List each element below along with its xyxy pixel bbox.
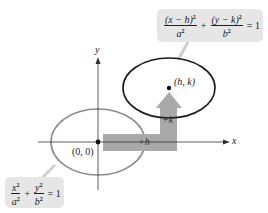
center-label: (h, k)	[174, 76, 195, 87]
plus-sign: +	[24, 188, 30, 199]
fraction-x: x2 a2	[11, 180, 20, 207]
top-callout-pointer	[178, 42, 188, 60]
equals-one: = 1	[48, 188, 61, 199]
translated-equation: (x − h)2 a2 + (y − k)2 b2 = 1	[162, 12, 262, 39]
vertical-shift-label: +k	[162, 114, 173, 125]
exponent: 2	[228, 28, 231, 34]
exponent: 2	[181, 28, 184, 34]
fraction-y: y2 b2	[34, 180, 43, 207]
numerator-x: (x − h)	[165, 14, 193, 25]
center-point	[167, 86, 171, 90]
x-axis-arrow-icon	[223, 140, 230, 145]
origin-point	[96, 140, 101, 145]
exponent: 2	[193, 14, 196, 20]
plus-sign: +	[201, 20, 207, 31]
fraction-x: (x − h)2 a2	[164, 12, 197, 39]
fraction-y: (y − k)2 b2	[211, 12, 243, 39]
numerator-y: (y − k)	[212, 14, 239, 25]
equals-one: = 1	[247, 20, 260, 31]
translated-equation-callout: (x − h)2 a2 + (y − k)2 b2 = 1	[157, 9, 263, 42]
horizontal-shift-label: +h	[138, 136, 150, 147]
exponent: 2	[16, 182, 19, 188]
exponent: 2	[239, 14, 242, 20]
y-axis-label: y	[95, 44, 99, 55]
origin-label: (0, 0)	[72, 146, 94, 157]
exponent: 2	[17, 196, 20, 202]
x-axis-label: x	[232, 135, 236, 146]
exponent: 2	[40, 182, 43, 188]
exponent: 2	[40, 196, 43, 202]
original-equation-callout: x2 a2 + y2 b2 = 1	[5, 177, 64, 208]
y-axis-arrow-icon	[96, 57, 101, 64]
original-equation: x2 a2 + y2 b2 = 1	[9, 180, 63, 207]
